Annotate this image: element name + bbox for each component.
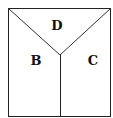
region-label-d: D — [51, 18, 62, 33]
region-label-c: C — [88, 53, 98, 68]
right-diagonal — [60, 9, 111, 56]
diagram: D B C — [0, 0, 113, 118]
region-label-b: B — [31, 53, 42, 68]
